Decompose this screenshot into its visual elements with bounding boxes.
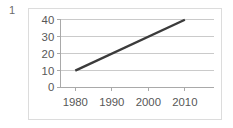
y-tick-label-10: 10 [42, 65, 55, 77]
plot-area: 010203040 1980199020002010 [29, 9, 221, 119]
figure-number-label: 1 [9, 4, 15, 16]
chart-frame: 010203040 1980199020002010 [28, 8, 222, 120]
gridlines-group [61, 20, 214, 71]
x-tick-label-1980: 1980 [63, 96, 88, 108]
axis-ticks-group [57, 20, 185, 91]
series-line-0 [75, 20, 185, 71]
x-tick-label-2010: 2010 [172, 96, 197, 108]
x-axis-tick-labels: 1980199020002010 [63, 96, 198, 108]
data-series-group [75, 20, 185, 71]
y-axis-tick-labels: 010203040 [42, 14, 55, 94]
y-tick-label-30: 30 [42, 31, 55, 43]
line-chart-svg: 010203040 1980199020002010 [29, 9, 221, 119]
x-tick-label-1990: 1990 [99, 96, 124, 108]
y-tick-label-40: 40 [42, 14, 55, 26]
y-tick-label-0: 0 [48, 82, 54, 94]
x-tick-label-2000: 2000 [136, 96, 161, 108]
y-tick-label-20: 20 [42, 48, 55, 60]
